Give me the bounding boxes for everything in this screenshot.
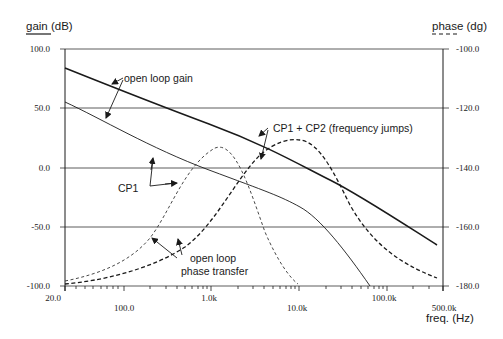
x-ticks: [65, 286, 443, 291]
svg-text:open loop gain: open loop gain: [124, 72, 193, 84]
series-open-loop-gain: [65, 68, 437, 245]
svg-text:100.0k: 100.0k: [372, 293, 397, 303]
svg-text:-160.0: -160.0: [456, 222, 480, 232]
x-axis-title: freq. (Hz): [426, 312, 474, 324]
annotation-cp1-cp2: CP1 + CP2 (frequency jumps): [259, 122, 413, 159]
y-right-tick-labels: -100.0 -120.0 -140.0 -160.0 -180.0: [456, 44, 480, 291]
svg-text:-100.0: -100.0: [456, 44, 480, 54]
svg-text:open loop: open loop: [190, 252, 236, 264]
svg-text:-140.0: -140.0: [456, 163, 480, 173]
svg-text:-100.0: -100.0: [27, 281, 51, 291]
svg-text:CP1: CP1: [118, 182, 139, 194]
y-left-tick-labels: 100.0 50.0 0.0 -50.0 -100.0: [27, 44, 51, 291]
svg-text:20.0: 20.0: [45, 293, 61, 303]
y-right-title: phase (dg): [432, 20, 487, 34]
grid-lines: [60, 49, 449, 286]
annotation-cp1: CP1: [118, 158, 177, 194]
svg-text:phase (dg): phase (dg): [432, 20, 487, 32]
svg-text:500.0k: 500.0k: [432, 303, 457, 313]
svg-text:gain (dB): gain (dB): [26, 20, 73, 32]
svg-text:-50.0: -50.0: [31, 222, 50, 232]
y-left-title: gain (dB): [26, 20, 73, 34]
axes: [65, 49, 443, 291]
svg-text:50.0: 50.0: [34, 103, 50, 113]
svg-text:CP1 + CP2 (frequency jumps): CP1 + CP2 (frequency jumps): [273, 122, 413, 134]
svg-text:1.0k: 1.0k: [201, 293, 217, 303]
x-tick-labels: 20.0 100.0 1.0k 10.0k 100.0k 500.0k: [45, 293, 457, 313]
svg-text:100.0: 100.0: [114, 303, 135, 313]
svg-text:0.0: 0.0: [39, 163, 51, 173]
annotation-open-loop-gain: open loop gain: [106, 72, 193, 118]
svg-text:10.0k: 10.0k: [287, 303, 308, 313]
svg-text:-180.0: -180.0: [456, 281, 480, 291]
bode-plot: gain (dB) phase (dg) freq. (Hz): [0, 0, 503, 339]
series-cp1-cp2-phase: [65, 140, 437, 284]
svg-text:phase transfer: phase transfer: [181, 265, 249, 277]
svg-text:-120.0: -120.0: [456, 103, 480, 113]
svg-text:100.0: 100.0: [30, 44, 51, 54]
